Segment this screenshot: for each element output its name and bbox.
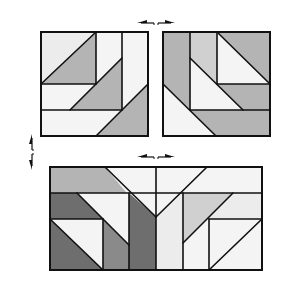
- bottom-block: [50, 167, 262, 270]
- middle-horizontal-arrow-icon: [137, 154, 175, 159]
- diagram-canvas: [0, 0, 287, 292]
- top-right-block: [163, 32, 270, 136]
- quilt-assembly-diagram: [0, 0, 287, 292]
- top-horizontal-arrow-icon: [137, 20, 175, 25]
- left-vertical-arrow-icon: [29, 134, 34, 170]
- top-left-block: [41, 32, 148, 136]
